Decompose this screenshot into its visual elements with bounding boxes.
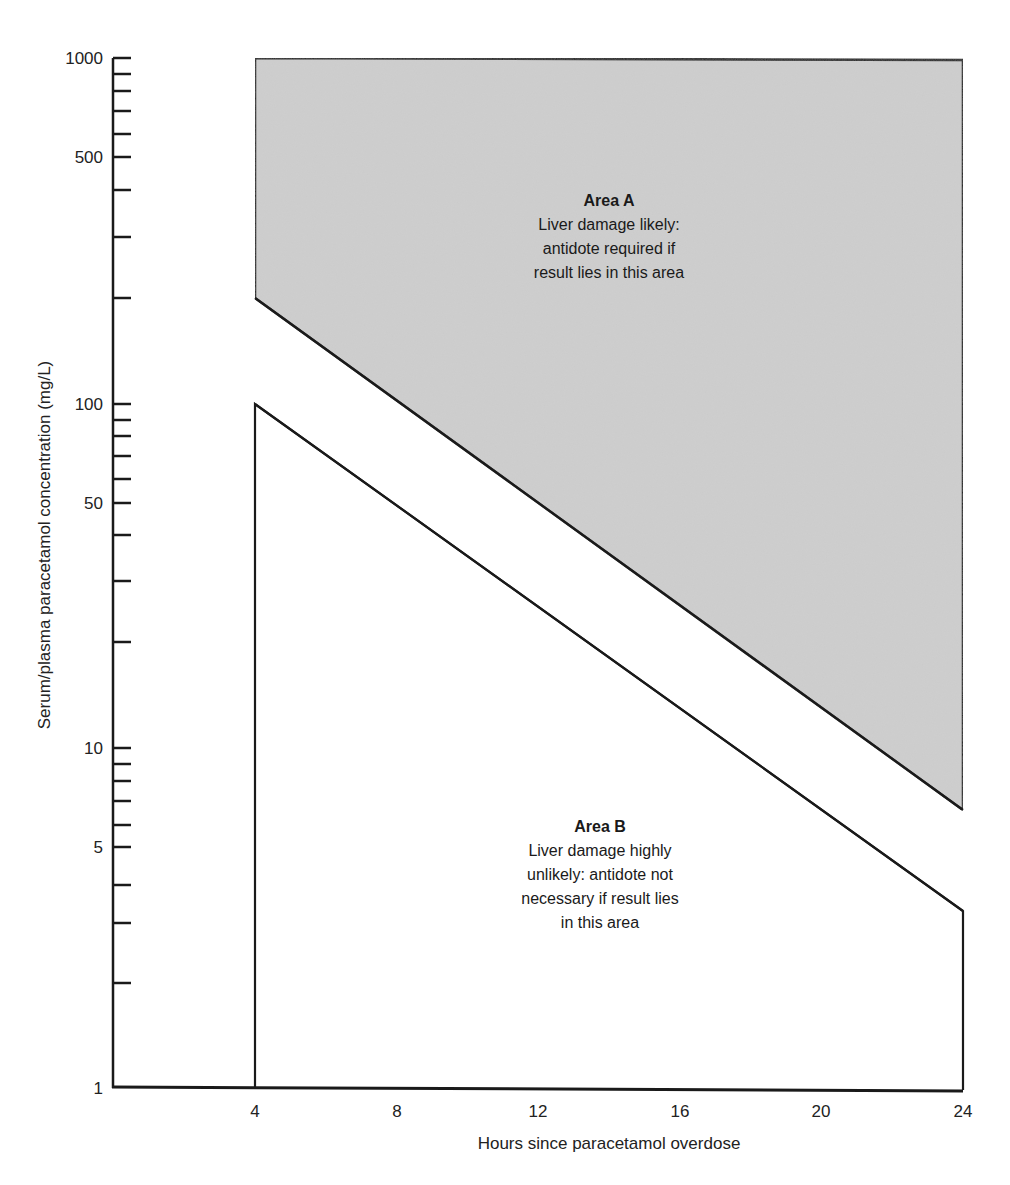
y-label-1000: 1000 [65,49,103,68]
area-b-line-1: Liver damage highly [528,842,671,859]
y-label-5: 5 [94,838,103,857]
y-label-500: 500 [75,148,103,167]
area-a-line-3: result lies in this area [534,264,684,281]
area-a-line-1: Liver damage likely: [538,216,679,233]
area-b-line-4: in this area [561,914,639,931]
y-label-100: 100 [75,395,103,414]
area-a-line-2: antidote required if [543,240,676,257]
y-tick-labels: 1000 500 100 50 10 5 1 [65,49,103,1098]
x-axis [112,1087,963,1091]
y-ticks [113,58,131,983]
area-b-line-3: necessary if result lies [521,890,678,907]
x-label-16: 16 [671,1102,690,1121]
x-axis-title: Hours since paracetamol overdose [478,1134,741,1153]
x-label-24: 24 [954,1102,973,1121]
area-a-region [255,58,963,810]
y-label-10: 10 [84,739,103,758]
x-label-12: 12 [529,1102,548,1121]
area-a-title: Area A [584,192,635,209]
x-tick-labels: 4 8 12 16 20 24 [250,1102,972,1121]
paracetamol-nomogram: 1000 500 100 50 10 5 1 4 8 12 16 20 24 H… [0,0,1010,1185]
y-axis-title: Serum/plasma paracetamol concentration (… [35,361,54,730]
area-b-title: Area B [574,818,626,835]
area-b-line-2: unlikely: antidote not [527,866,673,883]
x-label-8: 8 [392,1102,401,1121]
y-label-50: 50 [84,494,103,513]
x-label-4: 4 [250,1102,259,1121]
area-b-annotation: Area B Liver damage highly unlikely: ant… [521,818,678,931]
y-label-1: 1 [94,1079,103,1098]
x-label-20: 20 [812,1102,831,1121]
